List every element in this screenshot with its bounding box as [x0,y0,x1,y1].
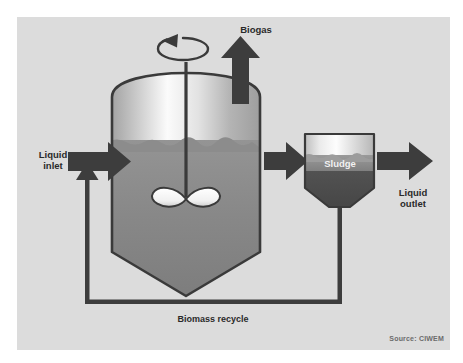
settler-clear-band [303,132,377,157]
sludge-label: Sludge [324,158,356,169]
recycle-horizontal-pipe [85,300,342,305]
biogas-label: Biogas [240,24,272,35]
figure-root: Liquid inlet Biogas Sludge Liquid outlet… [0,0,463,363]
mixer-shaft [184,62,187,197]
liquid-inlet-label-line1: Liquid [39,149,68,160]
liquid-outlet-label-line2: outlet [400,198,427,209]
biomass-recycle-label: Biomass recycle [177,314,248,324]
process-flow-diagram: Liquid inlet Biogas Sludge Liquid outlet… [0,0,463,363]
source-credit: Source: CIWEM [389,335,444,342]
recycle-right-downcomer [338,205,343,302]
recycle-left-riser [85,178,90,302]
liquid-inlet-label-line2: inlet [43,160,63,171]
liquid-outlet-label-line1: Liquid [399,187,428,198]
